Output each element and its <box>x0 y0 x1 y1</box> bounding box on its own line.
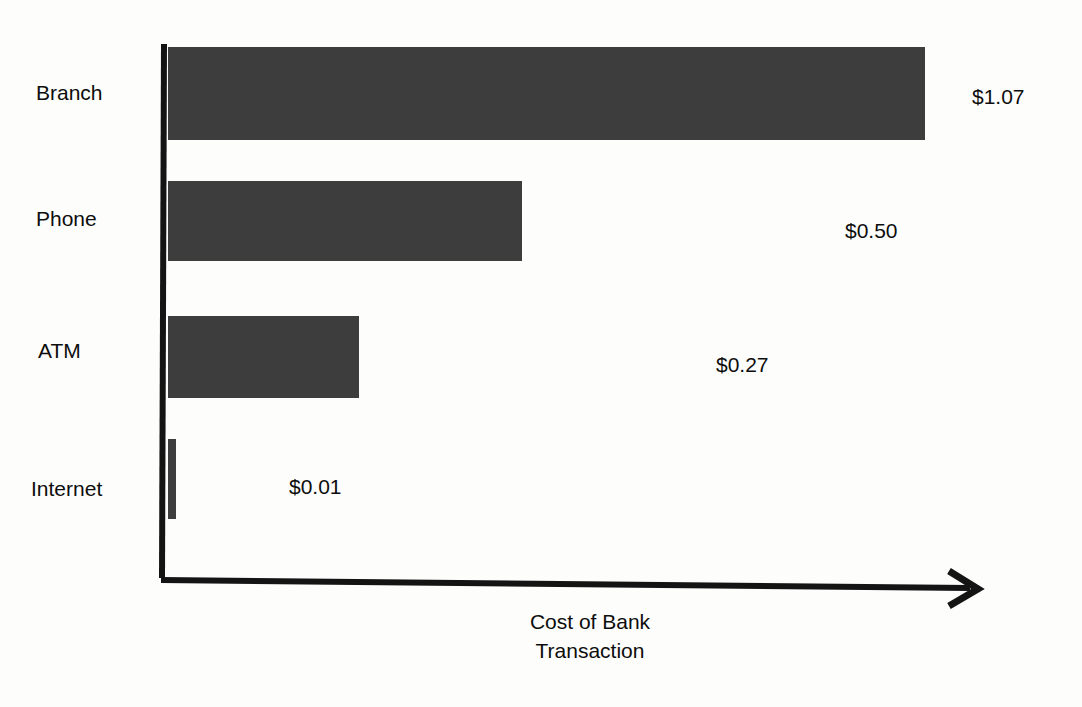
category-label-internet: Internet <box>31 478 102 499</box>
bar-internet <box>168 439 176 519</box>
category-label-atm: ATM <box>38 340 81 361</box>
x-axis-arrow-icon <box>949 571 978 606</box>
bar-chart: Branch Phone ATM Internet $1.07 $0.50 $0… <box>0 0 1082 707</box>
bar-atm <box>168 316 359 398</box>
x-axis-line <box>161 580 970 588</box>
x-axis-title-line-1: Cost of Bank <box>430 607 750 636</box>
bar-branch <box>168 47 925 140</box>
value-label-internet: $0.01 <box>289 476 342 497</box>
bar-phone <box>168 181 522 261</box>
x-axis-title-line-2: Transaction <box>430 636 750 665</box>
chart-page: Branch Phone ATM Internet $1.07 $0.50 $0… <box>0 0 1082 707</box>
category-label-phone: Phone <box>36 208 97 229</box>
y-axis-line <box>162 44 164 578</box>
value-label-branch: $1.07 <box>972 86 1025 107</box>
x-axis-title: Cost of Bank Transaction <box>430 607 750 665</box>
value-label-atm: $0.27 <box>716 354 769 375</box>
category-label-branch: Branch <box>36 82 103 103</box>
value-label-phone: $0.50 <box>845 220 898 241</box>
